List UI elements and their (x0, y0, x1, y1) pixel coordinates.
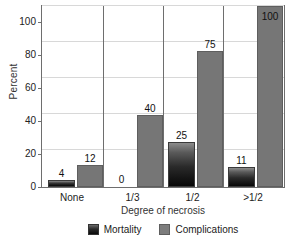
value-label-complications-none: 12 (75, 153, 105, 164)
bar-complications-gt-one-half (257, 6, 283, 187)
y-tick-label-80: 80 (10, 50, 36, 60)
y-tick-label-20: 20 (10, 149, 36, 159)
value-label-complications-gt-one-half: 100 (253, 11, 287, 22)
y-tick-label-60: 60 (10, 83, 36, 93)
group-separator-3 (223, 6, 224, 187)
legend-label-mortality: Mortality (104, 224, 142, 235)
value-label-mortality-gt-one-half: 11 (226, 155, 257, 166)
y-tick-label-0: 0 (10, 182, 36, 192)
value-label-mortality-one-third: 0 (108, 174, 135, 185)
chart-legend: Mortality Complications (41, 224, 285, 235)
value-label-complications-one-half: 75 (195, 39, 225, 50)
complications-swatch-icon (159, 224, 170, 235)
bar-chart-figure: Percent 100 80 60 40 20 0 4 12 (0, 0, 297, 250)
x-tick-label-none: None (41, 192, 103, 203)
group-separator-2 (163, 6, 164, 187)
bar-complications-one-third (137, 115, 163, 187)
y-tick-label-100: 100 (10, 17, 36, 27)
bar-mortality-one-half (168, 142, 195, 187)
value-label-complications-one-third: 40 (135, 103, 165, 114)
mortality-swatch-icon (88, 224, 99, 235)
x-axis-title: Degree of necrosis (41, 205, 285, 216)
x-tick-label-gt-one-half: >1/2 (222, 192, 284, 203)
y-tick-label-40: 40 (10, 116, 36, 126)
plot-inner: 4 12 0 40 25 75 11 100 (42, 6, 284, 187)
legend-label-complications: Complications (175, 224, 238, 235)
legend-item-mortality: Mortality (88, 224, 142, 235)
bar-complications-none (77, 165, 103, 187)
plot-area: 4 12 0 40 25 75 11 100 (41, 5, 285, 188)
x-tick-label-one-half: 1/2 (162, 192, 223, 203)
bar-complications-one-half (197, 51, 223, 187)
value-label-mortality-one-half: 25 (166, 130, 197, 141)
bar-mortality-gt-one-half (228, 167, 255, 187)
bar-mortality-none (48, 180, 75, 187)
x-tick-label-one-third: 1/3 (102, 192, 163, 203)
value-label-mortality-none: 4 (48, 168, 75, 179)
legend-item-complications: Complications (159, 224, 238, 235)
